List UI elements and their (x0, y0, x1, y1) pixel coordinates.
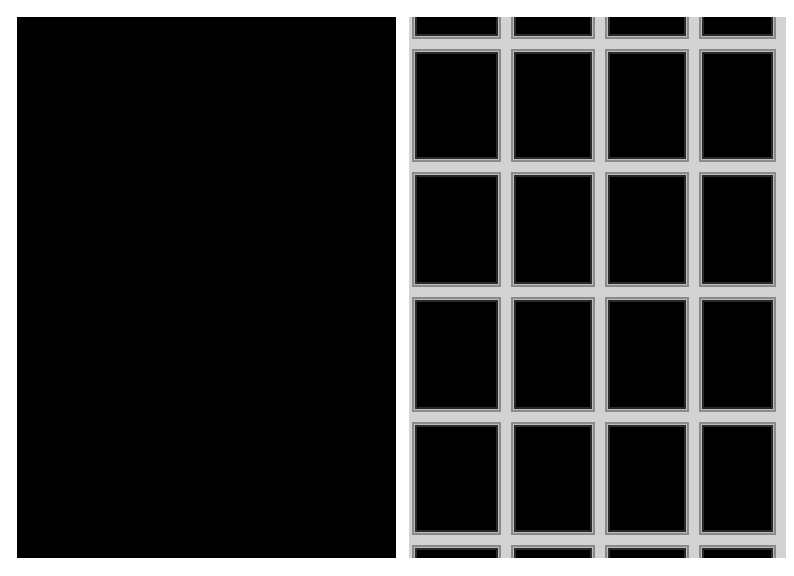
window-pane (605, 17, 689, 39)
window-pane (699, 49, 776, 162)
window-pane (511, 172, 595, 287)
window-pane (605, 172, 689, 287)
window-pane (511, 545, 595, 558)
crackle-texture-photo (17, 17, 396, 558)
window-pane (605, 422, 689, 535)
window-pane (511, 49, 595, 162)
window-pane (699, 17, 776, 39)
window-pane (605, 49, 689, 162)
window-pane (412, 172, 501, 287)
window-pane (699, 297, 776, 412)
window-pane (605, 545, 689, 558)
window-pane (412, 297, 501, 412)
window-pane (511, 297, 595, 412)
window-pane (412, 545, 501, 558)
window-pane (412, 49, 501, 162)
window-pane (605, 297, 689, 412)
window-grid-facade-photo (409, 17, 786, 558)
window-pane (511, 422, 595, 535)
window-pane (412, 422, 501, 535)
window-pane (699, 422, 776, 535)
window-pane (699, 545, 776, 558)
texture-pattern (17, 17, 396, 558)
window-pane (699, 172, 776, 287)
window-pane (412, 17, 501, 39)
window-pane (511, 17, 595, 39)
